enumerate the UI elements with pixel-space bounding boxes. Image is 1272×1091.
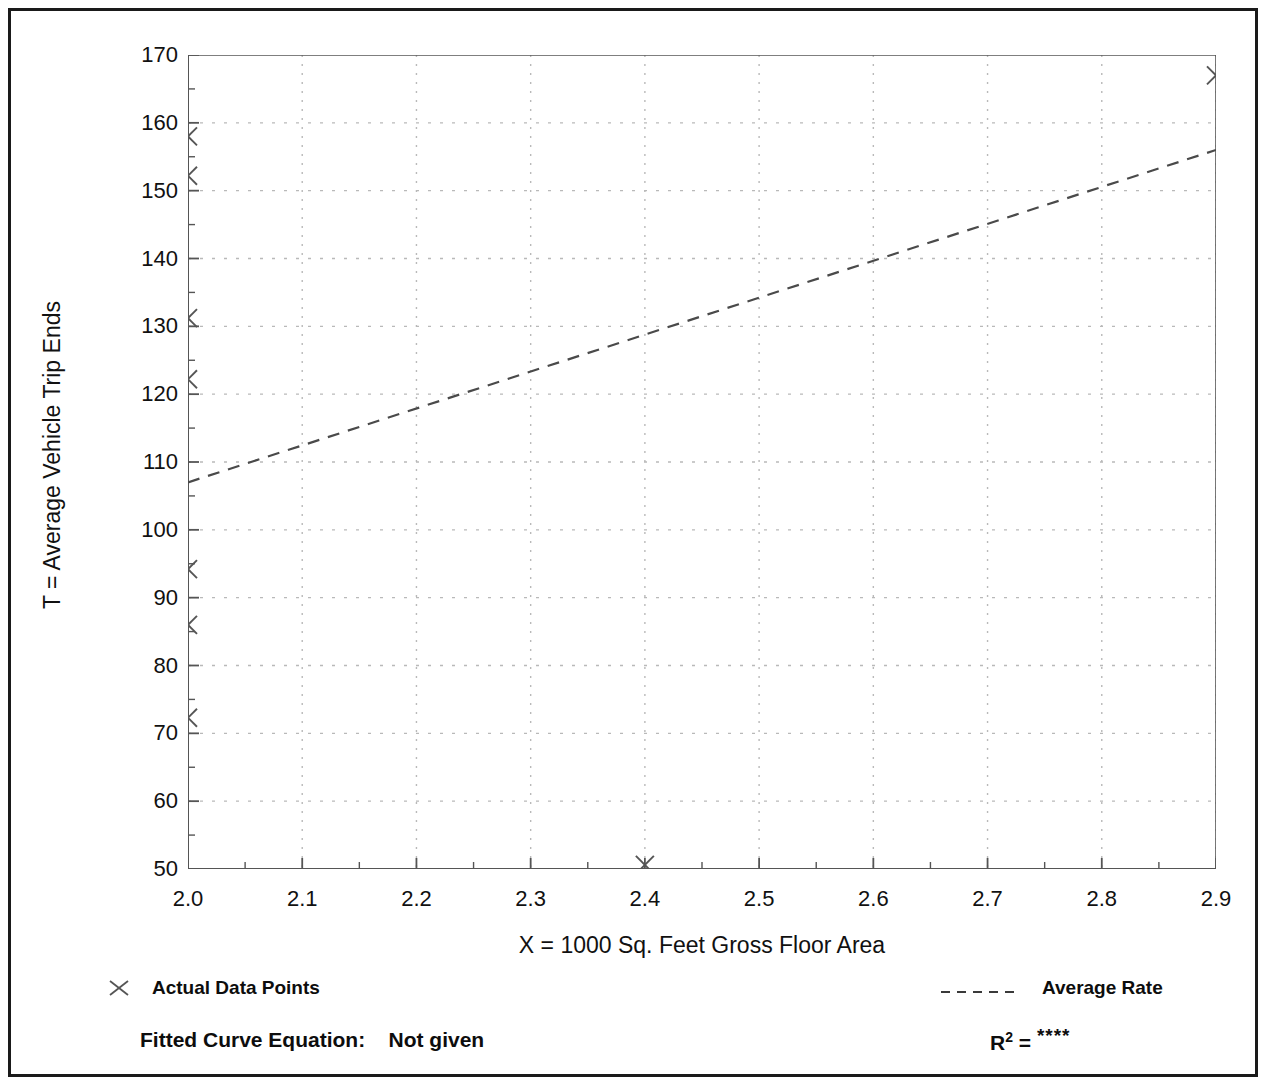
legend-label-actual-data-points: Actual Data Points [152, 977, 320, 999]
fitted-curve-equation: Fitted Curve Equation: Not given [140, 1028, 484, 1052]
x-marker-glyph [106, 977, 132, 999]
fitted-curve-equation-label: Fitted Curve Equation: [140, 1028, 365, 1051]
y-axis-tick-label: 80 [154, 655, 178, 677]
y-axis-tick-label: 100 [141, 519, 178, 541]
x-axis-tick-label: 2.0 [173, 888, 204, 910]
average-rate-line [188, 150, 1216, 482]
x-axis-tick-labels: 2.02.12.22.32.42.52.62.72.82.9 [188, 888, 1216, 918]
chart-figure: 5060708090100110120130140150160170 2.02.… [0, 0, 1272, 1091]
y-axis-tick-label: 130 [141, 315, 178, 337]
y-axis-tick-label: 140 [141, 248, 178, 270]
x-axis-tick-label: 2.9 [1201, 888, 1232, 910]
x-axis-tick-label: 2.2 [401, 888, 432, 910]
r-squared-value: R2 = **** [990, 1025, 1071, 1055]
data-point-marker [1207, 66, 1216, 84]
plot-svg [188, 55, 1216, 869]
y-axis-tick-label: 110 [143, 451, 178, 473]
r-squared-symbol: R [990, 1031, 1005, 1054]
y-axis-title: T = Average Vehicle Trip Ends [39, 301, 66, 609]
legend-item-actual-data-points: Actual Data Points [106, 977, 320, 999]
data-point-marker [188, 709, 197, 727]
x-axis-tick-label: 2.7 [972, 888, 1003, 910]
dashed-line-glyph [940, 987, 1018, 997]
data-point-marker [188, 127, 197, 145]
legend-label-average-rate: Average Rate [1042, 977, 1163, 999]
x-axis-tick-label: 2.8 [1086, 888, 1117, 910]
r-squared-equals: = [1019, 1031, 1031, 1054]
plot-area [188, 55, 1216, 869]
y-axis-tick-label: 50 [154, 858, 178, 880]
x-axis-tick-label: 2.6 [858, 888, 889, 910]
x-axis-tick-label: 2.1 [287, 888, 318, 910]
x-axis-title: X = 1000 Sq. Feet Gross Floor Area [188, 932, 1216, 959]
r-squared-exponent: 2 [1005, 1029, 1013, 1045]
y-axis-tick-label: 120 [141, 383, 178, 405]
y-axis-tick-label: 70 [154, 722, 178, 744]
fitted-curve-equation-value: Not given [389, 1028, 485, 1051]
dashed-line-icon [940, 983, 1018, 993]
legend-item-average-rate: Average Rate [940, 977, 1163, 999]
data-point-marker [188, 560, 197, 578]
y-axis-tick-label: 60 [154, 790, 178, 812]
y-axis-tick-label: 90 [154, 587, 178, 609]
data-point-marker [188, 370, 197, 388]
y-axis-tick-label: 170 [141, 44, 178, 66]
data-point-marker [188, 309, 197, 327]
data-point-marker [188, 167, 197, 185]
r-squared-stars: **** [1037, 1025, 1071, 1046]
x-axis-tick-label: 2.5 [744, 888, 775, 910]
x-axis-tick-label: 2.4 [630, 888, 661, 910]
x-marker-icon [106, 977, 132, 999]
x-axis-tick-label: 2.3 [515, 888, 546, 910]
y-axis-tick-label: 150 [141, 180, 178, 202]
y-axis-tick-labels: 5060708090100110120130140150160170 [120, 0, 178, 1069]
y-axis-tick-label: 160 [141, 112, 178, 134]
